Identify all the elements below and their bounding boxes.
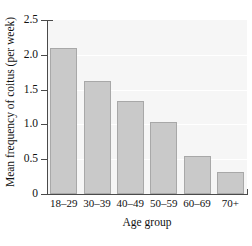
bar bbox=[50, 48, 77, 194]
y-axis-tick bbox=[41, 55, 47, 56]
x-axis-tick-label: 70+ bbox=[205, 198, 252, 209]
bar bbox=[184, 156, 211, 194]
bar bbox=[117, 101, 144, 194]
y-axis-tick bbox=[41, 90, 47, 91]
y-axis-top-cap bbox=[47, 20, 53, 21]
bar bbox=[150, 122, 177, 194]
y-axis-tick-label: 2.5 bbox=[0, 14, 38, 26]
y-axis-tick-label: 1.5 bbox=[0, 84, 38, 96]
y-axis-tick bbox=[41, 159, 47, 160]
y-axis-tick bbox=[41, 124, 47, 125]
y-axis-tick-label: 1.0 bbox=[0, 118, 38, 130]
y-axis-line bbox=[47, 20, 48, 195]
bar-chart: Mean frequency of coitus (per week) 00.5… bbox=[0, 0, 252, 246]
x-axis-right-cap bbox=[247, 189, 248, 195]
y-axis-tick bbox=[41, 20, 47, 21]
bar bbox=[84, 81, 111, 194]
y-axis-title: Mean frequency of coitus (per week) bbox=[1, 5, 19, 199]
x-axis-title: Age group bbox=[47, 216, 247, 228]
y-axis-tick bbox=[41, 194, 47, 195]
y-axis-tick-label: 0.5 bbox=[0, 153, 38, 165]
bar bbox=[217, 172, 244, 194]
y-axis-tick-label: 2.0 bbox=[0, 49, 38, 61]
y-axis-tick-label: 0 bbox=[0, 188, 38, 200]
x-axis-line bbox=[47, 194, 248, 195]
